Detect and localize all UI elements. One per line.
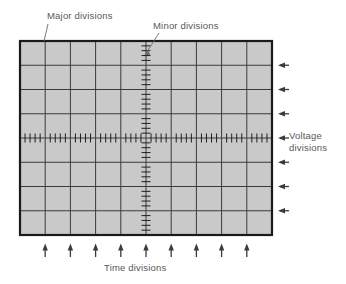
voltage-division-arrows bbox=[278, 62, 289, 213]
time-arrow-center bbox=[143, 244, 148, 258]
time-arrow bbox=[93, 244, 98, 258]
voltage-arrow bbox=[278, 87, 289, 93]
major-divisions-leader-line bbox=[44, 24, 48, 41]
voltage-arrow bbox=[278, 159, 289, 165]
oscilloscope-graticule-figure: Major divisions Minor divisions Voltage … bbox=[0, 0, 346, 284]
voltage-arrow bbox=[278, 184, 289, 190]
time-arrow bbox=[118, 244, 123, 258]
time-arrow bbox=[43, 244, 48, 258]
time-division-arrows bbox=[43, 244, 250, 258]
voltage-arrow bbox=[278, 62, 289, 68]
voltage-divisions-label-line1: Voltage bbox=[289, 130, 322, 141]
time-arrow bbox=[194, 244, 199, 258]
voltage-arrow bbox=[278, 111, 289, 117]
time-arrow bbox=[219, 244, 224, 258]
voltage-arrow-center bbox=[278, 135, 289, 141]
minor-divisions-label: Minor divisions bbox=[153, 20, 219, 32]
voltage-divisions-label: Voltage divisions bbox=[289, 130, 327, 153]
voltage-divisions-label-line2: divisions bbox=[289, 142, 327, 153]
time-arrow bbox=[169, 244, 174, 258]
voltage-arrow bbox=[278, 208, 289, 214]
major-divisions-label: Major divisions bbox=[47, 10, 113, 22]
time-divisions-label: Time divisions bbox=[104, 262, 167, 274]
time-arrow bbox=[244, 244, 249, 258]
time-arrow bbox=[68, 244, 73, 258]
